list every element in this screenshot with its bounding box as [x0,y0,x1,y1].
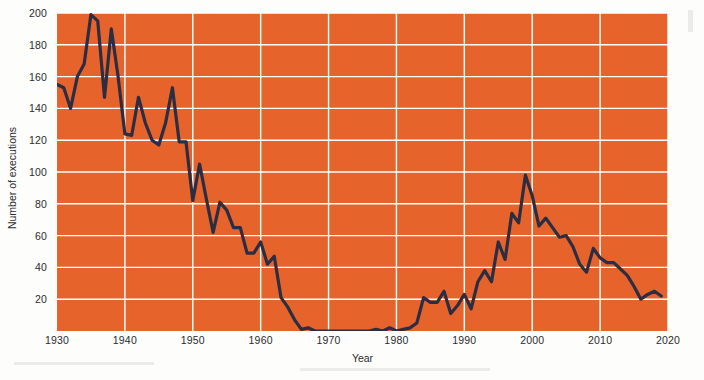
x-tick-label: 1950 [181,334,205,346]
x-axis-ticks: 1930194019501960197019801990200020102020 [57,334,668,350]
x-tick-label: 1970 [316,334,340,346]
x-tick-label: 1940 [113,334,137,346]
executions-line-series [57,13,668,331]
y-tick-label: 160 [29,71,47,83]
x-axis-title: Year [57,352,668,364]
x-tick-label: 2020 [656,334,680,346]
x-tick-label: 1990 [452,334,476,346]
x-tick-label: 1960 [249,334,273,346]
y-tick-label: 180 [29,39,47,51]
y-tick-label: 20 [35,293,47,305]
paper-speck [300,368,490,371]
y-axis-title: Number of executions [6,103,18,253]
chart-figure: 20406080100120140160180200 1930194019501… [0,0,704,380]
plot-area [57,13,668,331]
x-tick-label: 1930 [45,334,69,346]
x-tick-label: 2000 [520,334,544,346]
y-tick-label: 80 [35,198,47,210]
y-tick-label: 100 [29,166,47,178]
y-tick-label: 120 [29,134,47,146]
y-tick-label: 140 [29,102,47,114]
y-tick-label: 40 [35,261,47,273]
x-tick-label: 1980 [384,334,408,346]
paper-speck [688,10,693,32]
x-tick-label: 2010 [588,334,612,346]
y-tick-label: 200 [29,7,47,19]
y-tick-label: 60 [35,230,47,242]
